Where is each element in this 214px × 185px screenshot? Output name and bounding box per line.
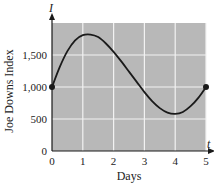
endpoint-dot [49, 84, 55, 90]
y-tick-label: 500 [31, 113, 48, 125]
y-tick-label: 1,000 [22, 81, 47, 93]
y-tick-label: 1,500 [22, 49, 47, 61]
x-axis-variable: t [207, 137, 211, 151]
x-tick-labels: 012345 [49, 155, 209, 167]
x-tick-label: 5 [203, 155, 209, 167]
x-axis-label: Days [117, 169, 142, 183]
x-tick-label: 3 [142, 155, 148, 167]
y-tick-labels: 05001,0001,500 [22, 49, 47, 157]
x-tick-label: 1 [80, 155, 86, 167]
x-tick-label: 4 [172, 155, 178, 167]
y-axis-variable: I [48, 1, 54, 15]
x-tick-label: 0 [49, 155, 55, 167]
line-chart: 012345 05001,0001,500 Days Joe Downs Ind… [0, 0, 214, 185]
chart: 012345 05001,0001,500 Days Joe Downs Ind… [0, 0, 214, 185]
endpoint-dot [203, 84, 209, 90]
y-tick-label: 0 [42, 145, 48, 157]
x-tick-label: 2 [111, 155, 117, 167]
y-axis-label: Joe Downs Index [2, 49, 16, 132]
